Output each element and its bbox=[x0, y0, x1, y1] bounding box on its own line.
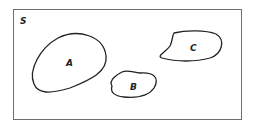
set-c-label: C bbox=[190, 43, 197, 53]
set-a-label: A bbox=[65, 58, 73, 68]
sample-space-label: S bbox=[20, 16, 26, 26]
venn-diagram: S A B C bbox=[0, 0, 256, 125]
sample-space-frame bbox=[14, 10, 242, 120]
set-b-label: B bbox=[130, 82, 137, 92]
